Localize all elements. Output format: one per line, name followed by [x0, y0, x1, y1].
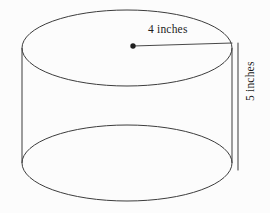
cylinder-top-ellipse [22, 10, 232, 86]
cylinder-bottom-ellipse [22, 125, 232, 201]
cylinder-drawing [0, 0, 270, 213]
radius-label: 4 inches [148, 23, 188, 35]
cylinder-figure: 4 inches 5 inches [0, 0, 270, 213]
height-label: 5 inches [244, 61, 256, 101]
radius-dimension-line [133, 43, 232, 46]
center-point-dot [130, 43, 135, 48]
